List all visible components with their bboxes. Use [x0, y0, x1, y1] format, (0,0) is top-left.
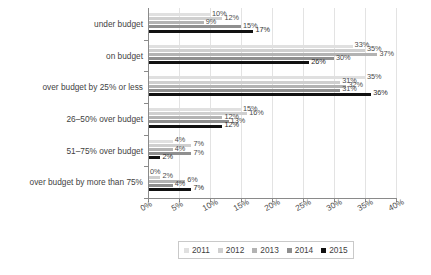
bar-value-label: 36%	[373, 89, 388, 97]
x-axis-tick-label: 25%	[294, 197, 313, 213]
y-axis-tick	[144, 103, 148, 104]
bar-value-label: 35%	[367, 73, 382, 81]
bar-2015-1	[148, 61, 309, 64]
bar-value-label: 26%	[311, 58, 326, 66]
bar-2015-4	[148, 156, 160, 159]
bar-value-label: 12%	[224, 14, 239, 22]
x-axis-tick-label: 35%	[356, 197, 375, 213]
legend-swatch-icon	[184, 248, 189, 253]
bar-value-label: 30%	[336, 54, 351, 62]
legend-swatch-icon	[321, 248, 326, 253]
legend-item-2015[interactable]: 2015	[321, 246, 347, 255]
bar-2012-5	[148, 176, 160, 179]
legend-swatch-icon	[218, 248, 223, 253]
x-axis-tick-label: 20%	[263, 197, 282, 213]
chart-container: 10%12%9%15%17%33%35%37%30%26%35%31%32%31…	[0, 0, 431, 275]
bar-2014-2	[148, 89, 340, 92]
legend-swatch-icon	[287, 248, 292, 253]
bar-2012-1	[148, 49, 365, 52]
legend-item-2013[interactable]: 2013	[252, 246, 278, 255]
legend-item-2014[interactable]: 2014	[287, 246, 313, 255]
category-label: under budget	[94, 19, 143, 29]
bar-2013-3	[148, 116, 222, 119]
bar-2011-0	[148, 13, 210, 16]
gridline	[303, 8, 304, 198]
bar-value-label: 2%	[162, 153, 173, 161]
gridline	[272, 8, 273, 198]
x-axis-tick-label: 0%	[139, 199, 154, 213]
plot-area: 10%12%9%15%17%33%35%37%30%26%35%31%32%31…	[148, 8, 396, 198]
legend-label: 2011	[192, 246, 210, 255]
chart-legend: 20112012201320142015	[178, 241, 354, 259]
bar-2014-0	[148, 25, 241, 28]
gridline	[241, 8, 242, 198]
x-axis-tick-label: 10%	[201, 197, 220, 213]
bar-value-label: 16%	[249, 109, 264, 117]
gridline	[334, 8, 335, 198]
bar-2012-2	[148, 81, 340, 84]
y-axis-line	[148, 8, 149, 198]
bar-value-label: 17%	[255, 26, 270, 34]
bar-value-label: 37%	[379, 50, 394, 58]
legend-item-2011[interactable]: 2011	[184, 246, 210, 255]
bar-2013-0	[148, 21, 204, 24]
y-axis-tick	[144, 166, 148, 167]
bar-value-label: 7%	[193, 149, 204, 157]
y-axis-tick	[144, 135, 148, 136]
legend-item-2012[interactable]: 2012	[218, 246, 244, 255]
legend-label: 2013	[260, 246, 278, 255]
bar-value-label: 12%	[224, 121, 239, 129]
bar-2014-3	[148, 120, 229, 123]
gridline	[365, 8, 366, 198]
gridline	[210, 8, 211, 198]
gridline	[179, 8, 180, 198]
category-label: 26–50% over budget	[66, 114, 143, 124]
bar-2014-1	[148, 57, 334, 60]
category-label: 51–75% over budget	[66, 146, 143, 156]
bar-2015-3	[148, 125, 222, 128]
bar-value-label: 7%	[193, 184, 204, 192]
x-axis-tick-label: 40%	[387, 197, 406, 213]
y-axis-tick	[144, 40, 148, 41]
legend-swatch-icon	[252, 248, 257, 253]
category-label: over budget by 25% or less	[42, 82, 143, 92]
category-label: over budget by more than 75%	[30, 177, 143, 187]
bar-2011-3	[148, 108, 241, 111]
category-label: on budget	[106, 51, 143, 61]
gridline	[396, 8, 397, 198]
bar-2015-0	[148, 30, 253, 33]
bar-2011-2	[148, 76, 365, 79]
y-axis-tick	[144, 71, 148, 72]
bar-2011-4	[148, 140, 173, 143]
x-axis-tick-label: 5%	[170, 199, 185, 213]
x-axis-tick-label: 15%	[232, 197, 251, 213]
legend-label: 2015	[329, 246, 347, 255]
x-axis-tick-label: 30%	[325, 197, 344, 213]
bar-2013-2	[148, 85, 346, 88]
bar-2015-2	[148, 93, 371, 96]
legend-label: 2014	[295, 246, 313, 255]
legend-label: 2012	[226, 246, 244, 255]
bar-2013-4	[148, 148, 173, 151]
bar-2014-5	[148, 184, 173, 187]
bar-2011-1	[148, 45, 353, 48]
bar-2015-5	[148, 188, 191, 191]
